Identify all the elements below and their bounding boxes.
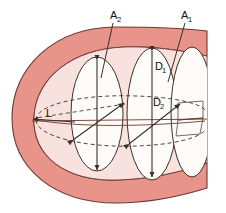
diagram-figure: A 2 A 1 D 1 D 2 L (0, 0, 226, 213)
label-d2-subscript: 2 (160, 102, 164, 111)
cross-section-lenses (71, 47, 213, 180)
label-d1-subscript: 1 (162, 66, 166, 75)
label-l: L (46, 107, 52, 119)
ovoid-cutaway-diagram: A 2 A 1 D 1 D 2 L (0, 0, 226, 213)
label-a2-subscript: 2 (117, 15, 121, 24)
lens-end (171, 47, 213, 177)
label-a1-subscript: 1 (188, 15, 192, 24)
